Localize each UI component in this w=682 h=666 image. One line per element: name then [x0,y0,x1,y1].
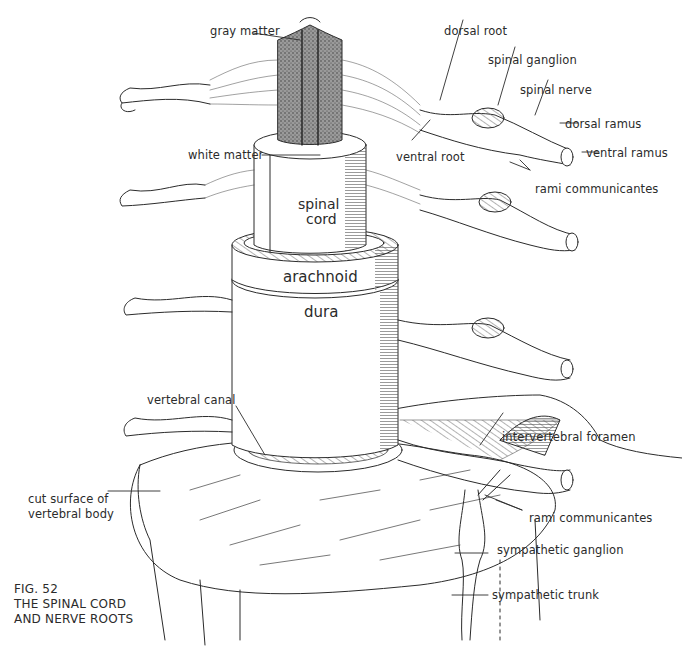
spinal-cord-label-line2: cord [306,211,337,227]
gray-matter-column [278,18,342,146]
figure-title-line1: THE SPINAL CORD [14,597,133,612]
label-spinal-ganglion: spinal ganglion [488,54,577,67]
label-rami-communicantes-bottom: rami communicantes [529,512,652,525]
label-dorsal-ramus: dorsal ramus [565,118,641,131]
label-sympathetic-ganglion: sympathetic ganglion [497,544,624,557]
label-rami-communicantes-top: rami communicantes [535,183,658,196]
label-spinal-nerve: spinal nerve [520,84,592,97]
label-gray-matter: gray matter [210,25,280,38]
label-ventral-root: ventral root [396,151,465,164]
spinal-cord-illustration [0,0,682,666]
label-cut-surface-line1: cut surface of [28,493,108,506]
figure-number: FIG. 52 [14,582,133,597]
label-intervertebral-foramen: intervertebral foramen [502,431,636,444]
label-dorsal-root: dorsal root [444,25,507,38]
figure-caption: FIG. 52 THE SPINAL CORD AND NERVE ROOTS [14,582,133,627]
label-ventral-ramus: ventral ramus [586,147,668,160]
spinal-cord-label-line1: spinal [298,196,339,212]
dura-label: dura [304,303,338,321]
left-spinal-nerves [120,84,232,436]
figure-title-line2: AND NERVE ROOTS [14,612,133,627]
label-cut-surface-line2: vertebral body [28,508,114,521]
spinal-cord [254,131,366,253]
arachnoid-label: arachnoid [283,268,358,286]
label-sympathetic-trunk: sympathetic trunk [492,589,599,602]
label-white-matter: white matter [188,149,263,162]
label-vertebral-canal: vertebral canal [147,394,236,407]
